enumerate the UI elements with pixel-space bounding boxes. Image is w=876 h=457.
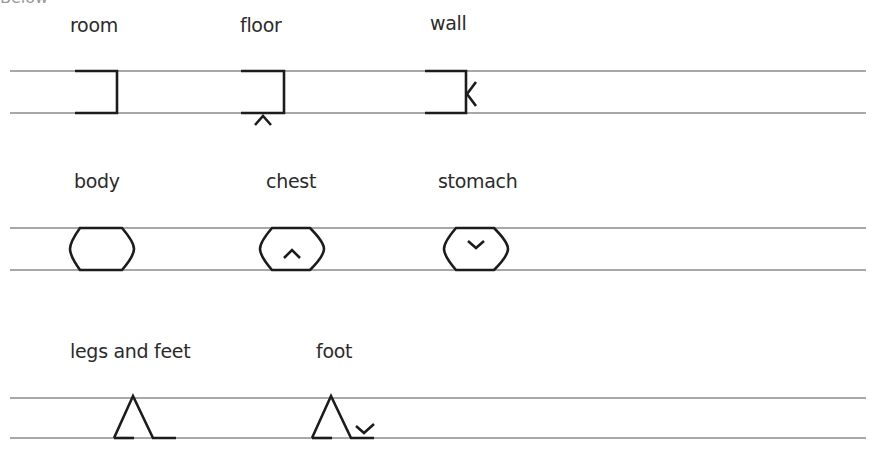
label-wall: wall [430,12,467,34]
floor-glyph-icon [236,66,296,130]
foot-glyph-icon [306,390,386,446]
label-stomach: stomach [438,170,518,192]
label-chest: chest [266,170,316,192]
wall-glyph-icon [420,66,490,122]
stomach-glyph-icon [438,222,514,276]
label-room: room [70,14,118,36]
body-glyph-icon [64,222,140,276]
label-legs-and-feet: legs and feet [70,340,190,362]
label-floor: floor [240,14,282,36]
chest-glyph-icon [254,222,330,276]
cutoff-heading: Below [0,0,48,7]
room-glyph-icon [70,66,130,122]
legs-and-feet-glyph-icon [108,390,184,446]
label-foot: foot [316,340,352,362]
label-body: body [74,170,120,192]
